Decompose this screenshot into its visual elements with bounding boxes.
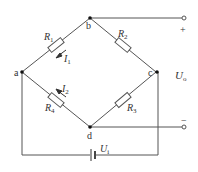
circuit-svg: a b c d R1 R2 R3 R4 I1 I2 + − Uo Ui <box>0 0 198 172</box>
label-r3: R3 <box>126 102 137 115</box>
label-minus: − <box>181 115 187 126</box>
label-ui: Ui <box>100 143 109 156</box>
label-i1: I1 <box>63 53 71 66</box>
node-c <box>155 70 159 74</box>
label-node-b: b <box>86 20 91 31</box>
label-uo: Uo <box>175 69 187 83</box>
label-r1: R1 <box>43 31 54 44</box>
label-node-d: d <box>87 130 92 141</box>
arrowhead-i1-icon <box>56 53 62 58</box>
label-r4: R4 <box>44 102 55 115</box>
label-node-c: c <box>148 67 153 78</box>
node-d <box>88 125 92 129</box>
label-node-a: a <box>14 67 19 78</box>
bridge-circuit-diagram: a b c d R1 R2 R3 R4 I1 I2 + − Uo Ui <box>0 0 198 172</box>
terminal-plus <box>182 16 186 20</box>
label-plus: + <box>180 24 186 35</box>
node-a <box>20 70 24 74</box>
resistor-r2 <box>115 38 131 53</box>
